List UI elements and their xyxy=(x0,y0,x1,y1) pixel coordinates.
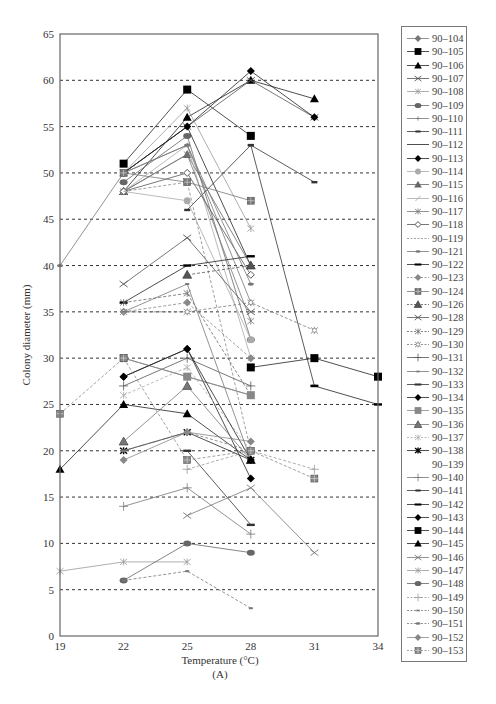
legend-swatch-icon xyxy=(406,166,430,177)
dot-marker-icon xyxy=(185,570,189,572)
legend-item: 90–111 xyxy=(402,125,468,138)
legend-label: 90–145 xyxy=(432,537,464,550)
legend-label: 90–106 xyxy=(432,59,464,72)
dash-marker-icon xyxy=(415,383,422,385)
legend-item: 90–116 xyxy=(402,192,468,205)
x-marker-icon xyxy=(310,550,318,556)
legend-swatch-icon xyxy=(406,153,430,164)
triangle-hatched-marker-icon xyxy=(414,420,422,427)
legend-label: 90–143 xyxy=(432,511,464,524)
legend-swatch-icon xyxy=(406,565,430,576)
x-marker-icon xyxy=(183,513,191,519)
diamond-marker-icon xyxy=(415,155,422,162)
legend-swatch-icon xyxy=(406,139,430,150)
plus-marker-icon xyxy=(414,474,422,482)
legend-label: 90–135 xyxy=(432,404,464,417)
legend-label: 90–116 xyxy=(432,192,463,205)
diamond-marker-icon xyxy=(415,514,422,521)
legend-label: 90–150 xyxy=(432,604,464,617)
legend-swatch-icon xyxy=(406,538,430,549)
plus-thin-marker-icon xyxy=(414,593,422,601)
series-90–121 xyxy=(57,144,254,286)
square-marker-icon xyxy=(183,373,191,381)
series-line xyxy=(124,488,251,534)
legend-swatch-icon xyxy=(406,259,430,270)
y-axis-ticks: 05101520253035404550556065 xyxy=(43,28,55,642)
diamond-marker-icon xyxy=(247,475,255,483)
legend-label: 90–112 xyxy=(432,138,463,151)
legend-swatch-icon xyxy=(406,246,430,257)
triangle-hatched-marker-icon xyxy=(119,437,128,445)
legend-swatch-icon xyxy=(406,552,430,563)
dot-marker-icon xyxy=(416,610,419,612)
square-marker-icon xyxy=(120,160,128,168)
diamond-marker-icon xyxy=(310,113,318,121)
legend-label: 90–148 xyxy=(432,577,464,590)
legend-label: 90–136 xyxy=(432,418,464,431)
legend-item: 90–126 xyxy=(402,298,468,311)
square-marker-icon xyxy=(310,354,318,362)
legend-item: 90–151 xyxy=(402,617,468,630)
legend-label: 90–139 xyxy=(432,458,464,471)
y-tick-label: 15 xyxy=(43,491,55,503)
legend-swatch-icon xyxy=(406,46,430,57)
y-tick-label: 65 xyxy=(43,28,55,40)
dash-short-marker-icon xyxy=(415,490,420,492)
diamond-marker-icon xyxy=(415,35,422,42)
legend-item: 90–149 xyxy=(402,591,468,604)
triangle-hatched-marker-icon xyxy=(414,301,422,308)
legend-swatch-icon xyxy=(406,379,430,390)
legend-item: 90–119 xyxy=(402,232,468,245)
y-tick-label: 25 xyxy=(43,398,55,410)
legend-item: 90–118 xyxy=(402,218,468,231)
legend-item: 90–110 xyxy=(402,112,468,125)
legend-swatch-icon xyxy=(406,33,430,44)
legend-swatch-icon xyxy=(406,459,430,470)
triangle-hatched-marker-icon xyxy=(183,381,192,389)
diamond-marker-icon xyxy=(120,456,128,464)
x-tick-label: 28 xyxy=(245,640,257,652)
legend-swatch-icon xyxy=(406,499,430,510)
legend-item: 90–105 xyxy=(402,45,468,58)
legend-swatch-icon xyxy=(406,233,430,244)
plus-marker-icon xyxy=(119,381,128,390)
circle-marker-icon xyxy=(184,197,191,204)
legend-item: 90–108 xyxy=(402,85,468,98)
legend-item: 90–140 xyxy=(402,471,468,484)
legend-label: 90–134 xyxy=(432,391,464,404)
diamond-marker-icon xyxy=(415,394,422,401)
legend-item: 90–146 xyxy=(402,551,468,564)
legend-item: 90–145 xyxy=(402,537,468,550)
diamond-marker-icon xyxy=(415,634,422,641)
dash-short-marker-icon xyxy=(415,131,420,133)
legend-swatch-icon xyxy=(406,419,430,430)
asterisk-marker-icon xyxy=(247,318,254,325)
legend-swatch-icon xyxy=(406,179,430,190)
legend-label: 90–133 xyxy=(432,378,464,391)
series-line xyxy=(124,386,251,460)
series-layer xyxy=(56,67,383,609)
x-axis-label: Temperature (°C) xyxy=(181,654,259,667)
y-tick-label: 50 xyxy=(43,167,55,179)
triangle-hatched-marker-icon xyxy=(183,270,192,278)
legend-swatch-icon xyxy=(406,193,430,204)
diamond-open-marker-icon xyxy=(184,169,191,176)
square-marker-icon xyxy=(247,363,255,371)
legend-label: 90–115 xyxy=(432,178,463,191)
hexagon-marker-icon xyxy=(415,102,422,107)
hexagon-marker-icon xyxy=(120,179,128,185)
legend-swatch-icon xyxy=(406,632,430,643)
x-tick-label: 19 xyxy=(55,640,67,652)
series-line xyxy=(314,386,378,405)
legend-swatch-icon xyxy=(406,445,430,456)
diamond-marker-icon xyxy=(183,299,191,307)
legend-item: 90–141 xyxy=(402,484,468,497)
series-90–147 xyxy=(57,558,191,574)
hexagon-marker-icon xyxy=(415,581,422,586)
dash-short-marker-icon xyxy=(248,144,254,146)
dot-marker-icon xyxy=(416,370,419,372)
legend-label: 90–123 xyxy=(432,271,464,284)
legend-item: 90–117 xyxy=(402,205,468,218)
legend-item: 90–104 xyxy=(402,32,468,45)
triangle-marker-icon xyxy=(414,181,422,188)
